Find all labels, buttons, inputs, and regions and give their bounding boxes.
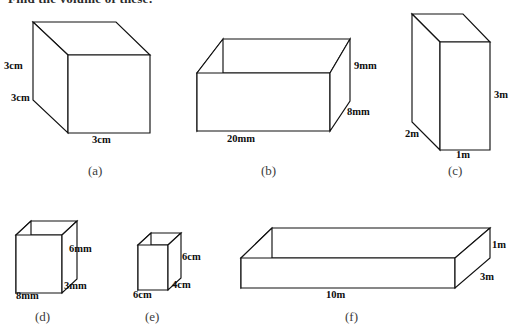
figure-a-depth-label: 3cm <box>11 93 30 104</box>
figure-f-top-face <box>241 228 490 258</box>
figure-e-width-label: 6cm <box>133 290 152 301</box>
figure-d-width-label: 8mm <box>16 291 39 302</box>
figure-f-height-label: 1m <box>492 240 506 251</box>
figure-f-depth-label: 3m <box>480 272 494 283</box>
figure-e-caption: (e) <box>145 310 159 323</box>
figure-c-depth-label: 2m <box>405 129 419 140</box>
figure-a-width-label: 3cm <box>92 135 111 146</box>
figure-e-depth-label: 4cm <box>172 280 191 291</box>
figure-e-front-face <box>138 245 168 290</box>
figure-b-caption: (b) <box>261 164 276 177</box>
figure-f-width-label: 10m <box>326 290 345 301</box>
figure-d-depth-label: 3mm <box>64 281 87 292</box>
figure-a-caption: (a) <box>88 164 102 177</box>
figure-b-height-label: 9mm <box>354 61 377 72</box>
figure-f-front-face <box>241 258 455 288</box>
figure-b-depth-label: 8mm <box>347 107 370 118</box>
figure-a-front-face <box>68 55 150 133</box>
figure-b-width-label: 20mm <box>227 134 255 145</box>
figure-d-front-face <box>16 235 62 293</box>
figure-d-height-label: 6mm <box>69 244 92 255</box>
figure-c-front-face <box>440 42 490 150</box>
figure-c-height-label: 3m <box>494 90 508 101</box>
figure-f-cuboid <box>241 228 490 288</box>
figure-c-cuboid <box>412 14 490 150</box>
figure-c-caption: (c) <box>448 164 462 177</box>
figure-d-caption: (d) <box>35 310 50 323</box>
figure-a-cube <box>33 22 150 133</box>
figure-b-cuboid <box>197 39 350 131</box>
figure-a-height-label: 3cm <box>4 61 23 72</box>
figure-e-height-label: 6cm <box>182 252 201 263</box>
figure-c-width-label: 1m <box>456 150 470 161</box>
figure-b-front-face <box>197 73 330 131</box>
worksheet-page: Find the volume of these: <box>0 0 525 333</box>
figure-f-caption: (f) <box>345 310 358 323</box>
